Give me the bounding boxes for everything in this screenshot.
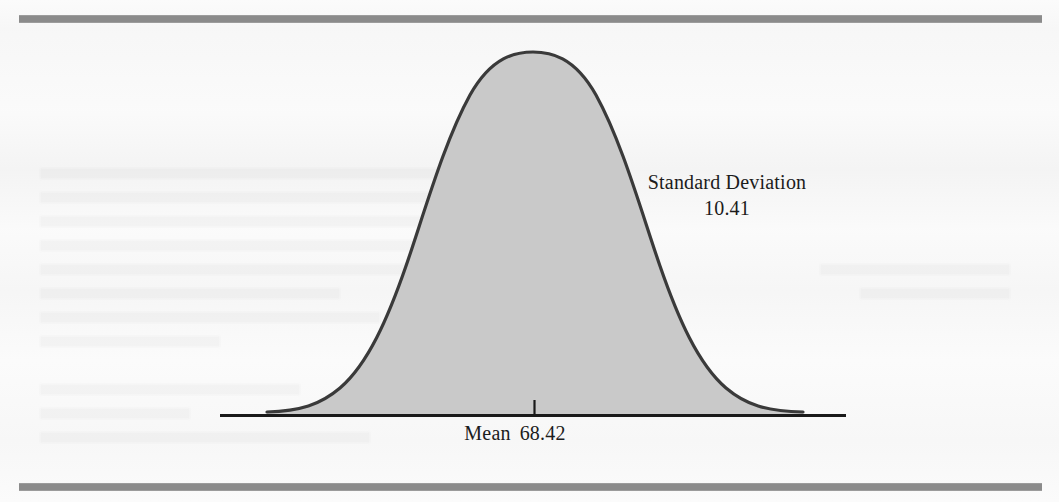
mean-label-text: Mean	[464, 422, 510, 444]
std-dev-label: Standard Deviation	[637, 170, 817, 195]
mean-value-text: 68.42	[520, 422, 566, 444]
std-dev-value: 10.41	[637, 196, 817, 221]
figure-page: Standard Deviation 10.41 Mean68.42	[0, 0, 1059, 502]
mean-annotation: Mean68.42	[425, 421, 605, 446]
curve-fill-area	[267, 52, 803, 415]
